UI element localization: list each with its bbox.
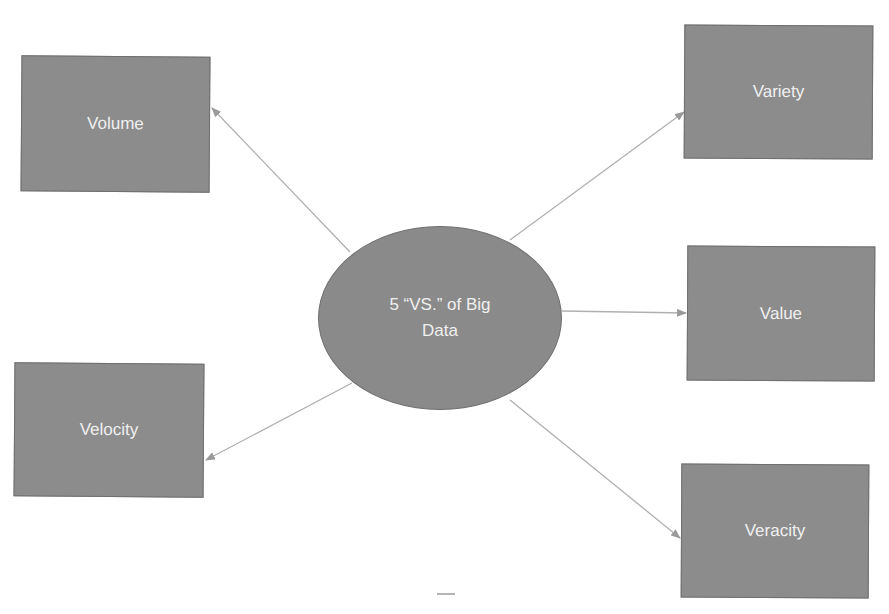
- node-veracity-label: Veracity: [745, 521, 806, 541]
- node-volume: Volume: [21, 55, 211, 192]
- node-veracity: Veracity: [681, 464, 870, 599]
- arrow-to-volume: [212, 108, 350, 252]
- center-label-line2: Data: [422, 318, 458, 344]
- node-value: Value: [687, 246, 876, 382]
- arrow-to-value: [562, 311, 686, 313]
- center-label-line1: 5 “VS.” of Big: [389, 292, 490, 318]
- node-variety: Variety: [684, 25, 874, 160]
- node-value-label: Value: [760, 303, 802, 323]
- center-ellipse: 5 “VS.” of Big Data: [318, 226, 562, 410]
- node-volume-label: Volume: [87, 114, 144, 134]
- node-velocity: Velocity: [14, 362, 205, 497]
- arrow-to-variety: [510, 112, 684, 240]
- scan-artifact: [437, 593, 455, 595]
- arrow-to-velocity: [206, 383, 352, 460]
- node-variety-label: Variety: [753, 82, 805, 102]
- node-velocity-label: Velocity: [80, 420, 139, 440]
- arrow-to-veracity: [510, 400, 680, 538]
